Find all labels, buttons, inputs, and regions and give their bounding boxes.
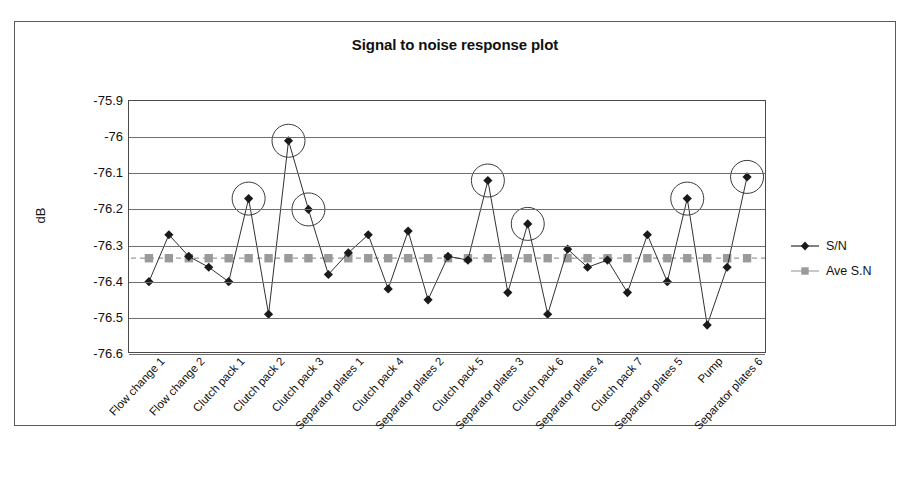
average-marker — [324, 254, 332, 262]
sn-data-point[interactable] — [404, 227, 413, 236]
y-tick-label: -76.1 — [93, 165, 123, 180]
legend-label-ave-sn: Ave S.N — [826, 264, 872, 278]
sn-data-point[interactable] — [703, 320, 712, 329]
average-marker — [145, 254, 153, 262]
x-tick-label: Pump — [696, 355, 725, 385]
y-tick-label: -76.5 — [93, 309, 123, 324]
gridline — [129, 173, 765, 174]
sn-data-point[interactable] — [423, 295, 432, 304]
average-marker — [284, 254, 292, 262]
sn-data-point[interactable] — [623, 288, 632, 297]
average-marker — [743, 254, 751, 262]
x-tick-label: Separator plates 5 — [612, 355, 685, 432]
gridline — [129, 137, 765, 138]
gridline — [129, 246, 765, 247]
y-tick-label: -76.2 — [93, 201, 123, 216]
x-tick-label: Separator plates 3 — [453, 355, 526, 432]
average-marker — [424, 254, 432, 262]
sn-line — [149, 141, 747, 325]
sn-data-point[interactable] — [244, 194, 253, 203]
average-marker — [683, 254, 691, 262]
average-marker — [663, 254, 671, 262]
sn-data-point[interactable] — [204, 263, 213, 272]
legend-item-ave-sn[interactable]: Ave S.N — [790, 263, 872, 279]
average-marker — [703, 254, 711, 262]
x-tick-label: Separator plates 2 — [373, 355, 446, 432]
average-marker — [504, 254, 512, 262]
average-marker — [264, 254, 272, 262]
y-axis-tick-labels: -75.9-76-76.1-76.2-76.3-76.4-76.5-76.6 — [59, 100, 123, 353]
chart-frame: Signal to noise response plot dB -75.9-7… — [14, 21, 896, 426]
average-marker — [165, 254, 173, 262]
diamond-marker-icon — [790, 239, 820, 253]
y-tick-label: -76.6 — [93, 346, 123, 361]
sn-data-point[interactable] — [384, 284, 393, 293]
sn-data-point[interactable] — [683, 194, 692, 203]
square-marker-icon — [790, 264, 820, 278]
x-tick-label: Separator plates 4 — [532, 355, 605, 432]
gridline — [129, 282, 765, 283]
average-marker — [244, 254, 252, 262]
gridline — [129, 318, 765, 319]
chart-title: Signal to noise response plot — [15, 36, 895, 53]
y-tick-label: -75.9 — [93, 93, 123, 108]
y-tick-label: -76.4 — [93, 273, 123, 288]
sn-data-point[interactable] — [643, 230, 652, 239]
y-tick-label: -76.3 — [93, 237, 123, 252]
average-marker — [384, 254, 392, 262]
gridline — [129, 209, 765, 210]
y-tick-label: -76 — [104, 129, 123, 144]
average-marker — [524, 254, 532, 262]
sn-data-point[interactable] — [503, 288, 512, 297]
x-tick-label: Separator plates 6 — [692, 355, 765, 432]
x-axis-tick-labels: Flow change 1Flow change 2Clutch pack 1C… — [128, 355, 808, 465]
average-marker — [543, 254, 551, 262]
average-marker — [583, 254, 591, 262]
average-marker — [224, 254, 232, 262]
plot-area — [128, 100, 766, 353]
x-tick-label: Separator plates 1 — [293, 355, 366, 432]
average-marker — [643, 254, 651, 262]
sn-data-point[interactable] — [523, 219, 532, 228]
sn-data-point[interactable] — [483, 176, 492, 185]
sn-data-point[interactable] — [723, 263, 732, 272]
y-axis-title: dB — [33, 208, 48, 224]
chart-legend: S/N Ave S.N — [790, 238, 894, 288]
average-marker — [364, 254, 372, 262]
average-marker — [404, 254, 412, 262]
average-marker — [484, 254, 492, 262]
average-marker — [205, 254, 213, 262]
average-marker — [304, 254, 312, 262]
legend-item-sn[interactable]: S/N — [790, 238, 847, 254]
average-marker — [623, 254, 631, 262]
legend-label-sn: S/N — [826, 239, 847, 253]
chart-data-layer — [129, 101, 767, 354]
